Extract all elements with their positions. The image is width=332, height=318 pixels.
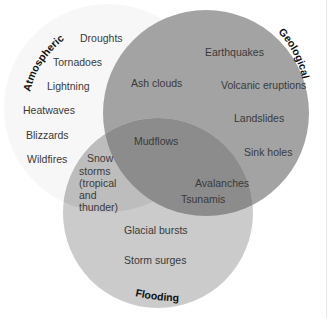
item-heatwaves: Heatwaves bbox=[23, 104, 75, 116]
venn-diagram: Atmospheric Geological Flooding Droughts… bbox=[0, 0, 332, 318]
item-glacial-bursts: Glacial bursts bbox=[124, 224, 188, 236]
item-ash-clouds: Ash clouds bbox=[131, 77, 182, 89]
item-tornadoes: Tornadoes bbox=[53, 56, 102, 68]
item-sink-holes: Sink holes bbox=[244, 146, 292, 158]
item-storm-surges: Storm surges bbox=[124, 254, 186, 266]
item-blizzards: Blizzards bbox=[26, 129, 69, 141]
item-volcanic-eruptions: Volcanic eruptions bbox=[221, 79, 306, 91]
item-snow-storms-5: thunder) bbox=[79, 201, 118, 213]
item-lightning: Lightning bbox=[47, 80, 90, 92]
item-avalanches: Avalanches bbox=[195, 177, 249, 189]
item-mudflows: Mudflows bbox=[134, 135, 178, 147]
item-snow-storms-3: (tropical bbox=[79, 177, 116, 189]
item-landslides: Landslides bbox=[234, 112, 284, 124]
item-snow-storms-1: Snow bbox=[87, 152, 114, 164]
right-edge-divider bbox=[326, 0, 327, 318]
item-droughts: Droughts bbox=[80, 32, 123, 44]
item-snow-storms-2: storms bbox=[79, 165, 111, 177]
item-tsunamis: Tsunamis bbox=[181, 193, 225, 205]
item-snow-storms-4: and bbox=[79, 189, 97, 201]
item-earthquakes: Earthquakes bbox=[205, 46, 264, 58]
item-wildfires: Wildfires bbox=[27, 153, 67, 165]
